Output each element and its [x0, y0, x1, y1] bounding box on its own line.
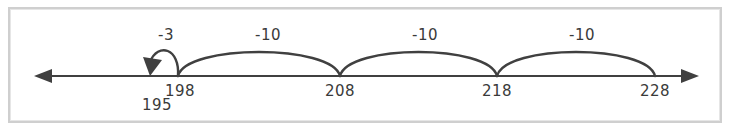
number-line-graphic: -3 -10 -10 -10 195 198 208 218 228	[0, 0, 733, 135]
hop-label-0: -3	[158, 26, 174, 44]
hop-arc-path	[497, 52, 655, 76]
hop-label-1: -10	[255, 26, 281, 44]
hop-arc-minus10-c: -10	[497, 26, 655, 76]
hop-arc-path	[178, 52, 340, 76]
number-line-figure: -3 -10 -10 -10 195 198 208 218 228	[0, 0, 733, 135]
hop-arc-minus3: -3	[143, 26, 178, 76]
hop-label-2: -10	[412, 26, 438, 44]
left-arrowhead-icon	[34, 69, 52, 83]
tick-label-228: 228	[640, 82, 670, 100]
hop-arc-path	[340, 52, 497, 76]
tick-label-198: 198	[165, 82, 195, 100]
hop-arc-minus10-b: -10	[340, 26, 497, 76]
right-arrowhead-icon	[681, 69, 699, 83]
hop-arc-minus10-a: -10	[178, 26, 340, 76]
hop-arrowhead-icon	[143, 57, 162, 76]
tick-label-208: 208	[325, 82, 355, 100]
hop-label-3: -10	[569, 26, 595, 44]
tick-label-218: 218	[482, 82, 512, 100]
